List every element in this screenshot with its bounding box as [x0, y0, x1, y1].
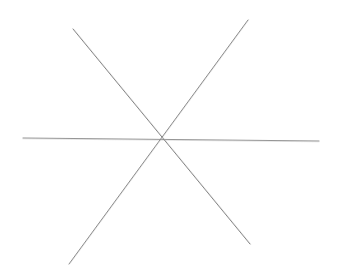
drawing-canvas — [0, 0, 337, 279]
asterisk-figure — [0, 0, 337, 279]
